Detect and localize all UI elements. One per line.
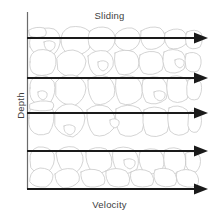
- velocity-axis-label: Velocity: [0, 199, 219, 210]
- depth-axis-label: Depth: [15, 86, 26, 126]
- granular-shear-diagram: Sliding Velocity Depth: [0, 0, 219, 222]
- sliding-label: Sliding: [0, 10, 219, 21]
- grain-field: [29, 27, 203, 189]
- diagram-canvas: [0, 0, 219, 222]
